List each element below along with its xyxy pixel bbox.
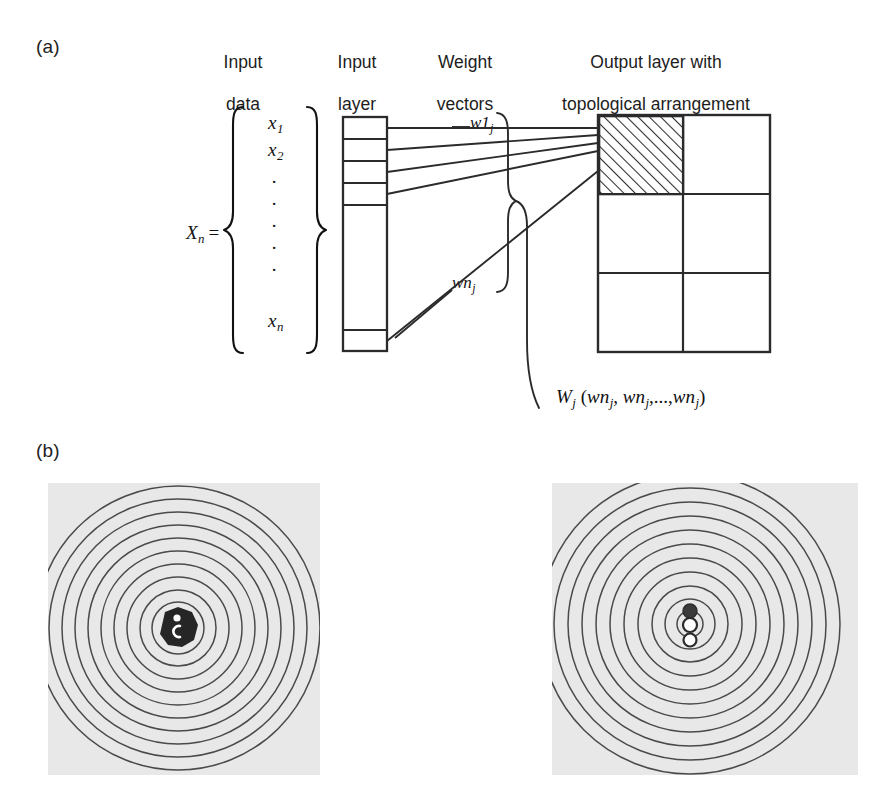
figure-root: (a) (b) Input data Input layer Weight ve… (0, 0, 882, 806)
input-vector-brackets (224, 107, 326, 353)
figure-graphics (0, 0, 882, 806)
som-map-left-white-dot (173, 614, 180, 621)
som-map-right-marker-hollow-1 (683, 618, 697, 632)
weight-connection-lines (387, 128, 598, 341)
weight-brace-upper (497, 113, 516, 292)
som-map-right-marker-filled (683, 604, 697, 618)
output-grid (598, 115, 770, 352)
vector-bracket-right (307, 107, 326, 353)
output-grid-cell-highlighted (599, 116, 683, 194)
input-layer-outline (343, 117, 387, 351)
wnj-leader-line (395, 290, 452, 338)
vector-bracket-left (224, 107, 243, 353)
som-map-right-marker-hollow-2 (684, 634, 697, 647)
som-map-left (36, 483, 320, 775)
som-map-right (540, 474, 858, 775)
weight-brace-tail (516, 201, 539, 408)
weight-group-brace (497, 113, 539, 408)
input-layer-column (343, 117, 387, 351)
connection-line-n (387, 171, 598, 341)
